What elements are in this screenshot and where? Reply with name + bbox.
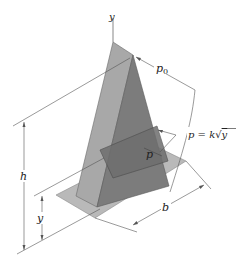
p0-arrow xyxy=(136,57,141,61)
y-axis-label: y xyxy=(108,11,115,22)
h-arrow-top xyxy=(23,122,26,127)
b-extension-bottom xyxy=(95,218,137,232)
h-arrow-bottom xyxy=(23,245,26,250)
b-arrow-left xyxy=(133,221,138,225)
p-section-label: p xyxy=(146,148,153,161)
y-dim-arrow-top xyxy=(41,196,44,201)
dam-diagram: y h y p0 p = k√y p b xyxy=(0,0,240,272)
b-extension-top xyxy=(186,161,211,189)
h-label: h xyxy=(20,170,27,183)
b-arrow-right xyxy=(199,185,204,189)
h-extension-bottom xyxy=(17,209,100,254)
y-dim-label: y xyxy=(36,212,44,225)
b-label: b xyxy=(162,201,169,214)
p-formula-label: p = k√y xyxy=(188,129,228,140)
y-dim-arrow-bottom xyxy=(41,235,44,240)
